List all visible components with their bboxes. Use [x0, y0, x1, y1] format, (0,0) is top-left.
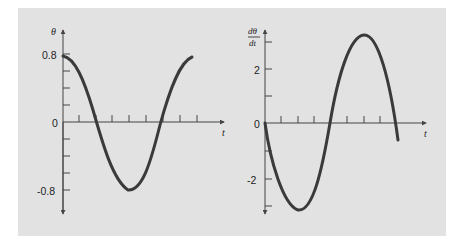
dtheta-y-label-denominator: dt — [249, 38, 257, 48]
dtheta-plot: dθ dt 2 0 -2 t — [247, 26, 427, 214]
theta-x-label: t — [222, 127, 225, 138]
theta-ytick-0: 0 — [52, 117, 58, 129]
theta-y-label: θ — [51, 26, 56, 37]
dtheta-ytick-neg2: -2 — [247, 174, 256, 186]
theta-curve — [63, 56, 192, 190]
dtheta-x-label: t — [424, 128, 427, 139]
theta-ytick-0.8: 0.8 — [42, 49, 57, 61]
dtheta-y-label-numerator: dθ — [248, 26, 258, 36]
dtheta-ytick-2: 2 — [254, 64, 260, 76]
dtheta-y-label: dθ dt — [248, 26, 260, 48]
theta-ytick-neg0.8: -0.8 — [37, 185, 55, 197]
theta-plot: θ 0.8 0 -0.8 t — [37, 26, 225, 214]
dtheta-ytick-0: 0 — [254, 118, 260, 130]
figure: θ 0.8 0 -0.8 t — [0, 0, 462, 246]
